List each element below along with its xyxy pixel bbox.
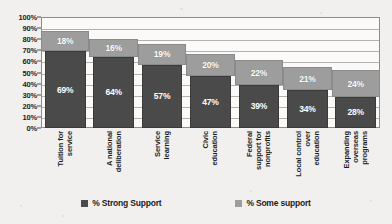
square-light-icon — [235, 200, 242, 207]
bar-segment-strong-support: 69% — [45, 51, 86, 128]
y-tick-label-50: 50% — [23, 68, 37, 77]
y-tick-label-40: 40% — [23, 79, 37, 88]
bar-segment-some-support: 22% — [235, 60, 283, 84]
bars-layer: 69%18%64%16%57%19%47%20%39%22%34%21%28%2… — [41, 17, 380, 128]
category-label: Tuition forservice — [41, 131, 89, 191]
category-label-line: learning — [162, 131, 171, 159]
y-tick-label-0: 0% — [27, 124, 37, 133]
bar-segment-some-support: 19% — [138, 44, 186, 65]
category-label-line: service — [65, 131, 74, 156]
scan-speck — [320, 12, 322, 14]
x-axis-category-labels: Tuition forserviceA nationaldeliberation… — [41, 131, 380, 193]
bar-segment-some-support: 16% — [89, 39, 137, 57]
bar-group: 57%19% — [138, 17, 186, 128]
bar-group: 28%24% — [332, 17, 380, 128]
bar-group: 34%21% — [283, 17, 331, 128]
y-tick-label-90: 90% — [23, 24, 37, 33]
category-label: Servicelearning — [138, 131, 186, 191]
y-tick-label-60: 60% — [23, 57, 37, 66]
bar-segment-some-support: 20% — [186, 54, 234, 76]
y-tick-label-30: 30% — [23, 90, 37, 99]
category-label-line: nonprofits — [263, 131, 272, 167]
chart-legend: % Strong Support% Some support — [0, 198, 392, 208]
category-label-line: A national — [105, 131, 114, 166]
scan-speck — [180, 8, 183, 10]
bar-segment-strong-support: 39% — [239, 85, 280, 128]
bar-segment-strong-support: 64% — [93, 57, 134, 128]
category-label: Local controlovereducation — [283, 131, 331, 191]
category-label-line: programs — [360, 131, 369, 165]
y-tick-label-80: 80% — [23, 35, 37, 44]
scan-speck — [20, 205, 22, 207]
scan-speck — [62, 215, 64, 217]
legend-item: % Strong Support — [81, 198, 161, 208]
legend-item: % Some support — [235, 198, 310, 208]
legend-label: % Some support — [246, 198, 310, 208]
y-tick-label-100: 100% — [19, 13, 37, 22]
y-tick-label-70: 70% — [23, 46, 37, 55]
category-label-line: education — [312, 131, 321, 166]
bar-segment-strong-support: 47% — [190, 76, 231, 128]
legend-label: % Strong Support — [92, 198, 161, 208]
bar-segment-some-support: 24% — [332, 70, 380, 97]
y-tick-label-10: 10% — [23, 112, 37, 121]
bar-segment-strong-support: 34% — [287, 90, 328, 128]
bar-group: 47%20% — [186, 17, 234, 128]
scan-speck — [250, 190, 252, 192]
bar-group: 39%22% — [235, 17, 283, 128]
category-label-line: overseas — [351, 131, 360, 163]
y-tick-label-20: 20% — [23, 101, 37, 110]
bar-segment-strong-support: 57% — [142, 65, 183, 128]
bar-segment-strong-support: 28% — [335, 97, 376, 128]
category-label-line: deliberation — [114, 131, 123, 172]
category-label-line: Expanding — [342, 131, 351, 168]
scan-speck — [370, 200, 372, 202]
category-label-line: education — [210, 131, 219, 166]
category-label-line: Service — [153, 131, 162, 157]
bar-group: 69%18% — [41, 17, 89, 128]
square-dark-icon — [81, 200, 88, 207]
bar-group: 64%16% — [89, 17, 137, 128]
stacked-bar-chart: 100%90%80%70%60%50%40%30%20%10%0% 69%18%… — [0, 0, 392, 224]
category-label-line: Local control — [294, 131, 303, 177]
category-label: Expandingoverseasprograms — [332, 131, 380, 191]
category-label-line: Tuition for — [56, 131, 65, 166]
category-label: Federalsupport fornonprofits — [235, 131, 283, 191]
category-label-line: over — [303, 131, 312, 146]
bar-segment-some-support: 18% — [41, 31, 89, 51]
category-label: A nationaldeliberation — [89, 131, 137, 191]
category-label: Civiceducation — [186, 131, 234, 191]
y-axis: 100%90%80%70%60%50%40%30%20%10%0% — [0, 17, 41, 128]
bar-segment-some-support: 21% — [283, 67, 331, 90]
